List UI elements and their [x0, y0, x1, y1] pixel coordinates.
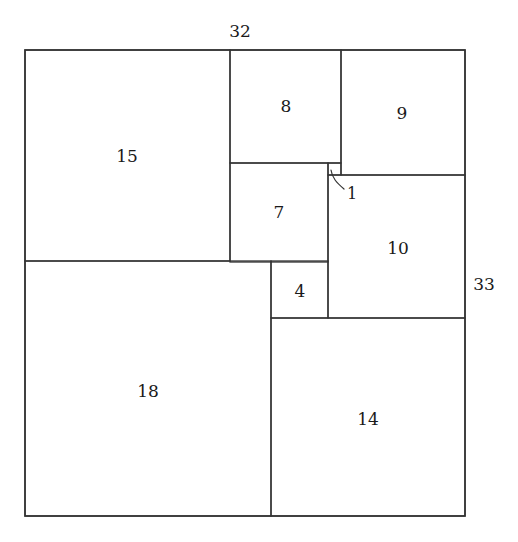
- square-label-9: 9: [397, 105, 408, 122]
- squared-rectangle-svg: [0, 0, 518, 542]
- square-label-4: 4: [295, 283, 306, 300]
- dimension-label-width: 32: [229, 23, 251, 40]
- dimension-label-height: 33: [473, 276, 495, 293]
- square-label-7: 7: [274, 204, 285, 221]
- square-label-14: 14: [357, 411, 379, 428]
- square-label-8: 8: [281, 98, 292, 115]
- callout-arrow-icon: [331, 170, 344, 189]
- square-label-1: 1: [347, 186, 357, 202]
- square-label-18: 18: [137, 383, 159, 400]
- square-1: [328, 163, 341, 175]
- squared-rectangle-figure: 15 8 9 1 7 10 4 18 14 32 33: [0, 0, 518, 542]
- square-label-10: 10: [387, 240, 409, 257]
- square-label-15: 15: [116, 148, 138, 165]
